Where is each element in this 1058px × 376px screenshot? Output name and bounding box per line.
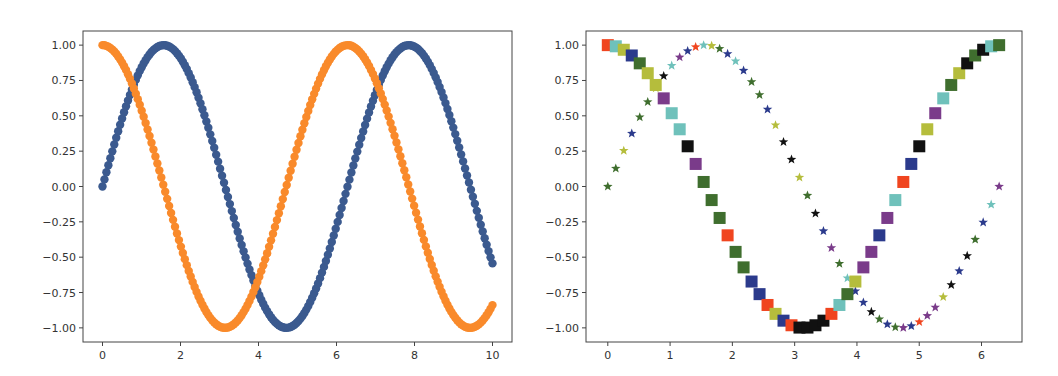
data-point bbox=[881, 212, 893, 224]
data-point bbox=[747, 77, 757, 86]
y-tick-label: −1.00 bbox=[545, 322, 579, 335]
y-tick-label: 1.00 bbox=[555, 39, 580, 52]
x-tick-label: 0 bbox=[604, 349, 611, 362]
data-point bbox=[284, 174, 292, 182]
data-point bbox=[163, 195, 171, 203]
data-point bbox=[400, 166, 408, 174]
data-point bbox=[659, 71, 669, 80]
data-point bbox=[347, 168, 355, 176]
x-tick-label: 0 bbox=[99, 349, 106, 362]
data-point bbox=[406, 187, 414, 195]
data-point bbox=[643, 97, 653, 106]
data-point bbox=[674, 123, 686, 135]
data-point bbox=[461, 164, 469, 172]
data-point bbox=[408, 194, 416, 202]
y-tick-label: 0.25 bbox=[52, 145, 77, 158]
data-point bbox=[339, 197, 347, 205]
data-point bbox=[619, 146, 629, 155]
data-point bbox=[341, 190, 349, 198]
data-point bbox=[98, 182, 106, 190]
y-tick-label: 1.00 bbox=[52, 39, 77, 52]
series-cosx bbox=[602, 39, 1005, 333]
data-point bbox=[345, 175, 353, 183]
data-point bbox=[875, 314, 885, 323]
y-tick-label: 0.00 bbox=[52, 181, 77, 194]
data-point bbox=[100, 175, 108, 183]
data-point bbox=[873, 229, 885, 241]
data-point bbox=[706, 194, 718, 206]
axes-frame bbox=[83, 31, 512, 342]
data-point bbox=[986, 200, 996, 209]
data-point bbox=[883, 319, 893, 328]
data-point bbox=[795, 172, 805, 181]
data-point bbox=[488, 259, 496, 267]
data-point bbox=[739, 66, 749, 75]
data-point bbox=[771, 120, 781, 129]
data-point bbox=[675, 52, 685, 61]
data-point bbox=[937, 92, 949, 104]
data-point bbox=[404, 180, 412, 188]
data-point bbox=[698, 176, 710, 188]
data-point bbox=[755, 90, 765, 99]
data-point bbox=[157, 173, 165, 181]
data-point bbox=[283, 181, 291, 189]
data-point bbox=[891, 322, 901, 331]
data-point bbox=[658, 92, 670, 104]
data-point bbox=[929, 107, 941, 119]
data-point bbox=[402, 173, 410, 181]
x-tick-label: 5 bbox=[916, 349, 923, 362]
x-tick-label: 8 bbox=[411, 349, 418, 362]
data-point bbox=[945, 79, 957, 91]
data-point bbox=[923, 311, 933, 320]
y-tick-label: −0.75 bbox=[545, 287, 579, 300]
y-tick-label: 0.00 bbox=[555, 181, 580, 194]
x-tick-label: 2 bbox=[729, 349, 736, 362]
right-axes: 01234561.000.750.500.250.00−0.25−0.50−0.… bbox=[545, 31, 1022, 362]
data-point bbox=[970, 235, 980, 244]
data-point bbox=[715, 44, 725, 53]
data-point bbox=[650, 79, 662, 91]
x-tick-label: 2 bbox=[177, 349, 184, 362]
x-tick-label: 4 bbox=[255, 349, 262, 362]
data-point bbox=[779, 137, 789, 146]
data-point bbox=[723, 49, 733, 58]
x-tick-label: 4 bbox=[853, 349, 860, 362]
data-point bbox=[993, 39, 1005, 51]
left-axes: 02468101.000.750.500.250.00−0.25−0.50−0.… bbox=[42, 31, 512, 362]
data-point bbox=[897, 176, 909, 188]
data-point bbox=[867, 307, 877, 316]
data-point bbox=[915, 317, 925, 326]
data-point bbox=[642, 67, 654, 79]
data-point bbox=[102, 168, 110, 176]
data-point bbox=[954, 266, 964, 275]
data-point bbox=[398, 159, 406, 167]
y-tick-label: 0.75 bbox=[52, 74, 77, 87]
y-tick-label: −0.75 bbox=[42, 287, 76, 300]
data-point bbox=[978, 217, 988, 226]
x-tick-label: 3 bbox=[791, 349, 798, 362]
x-tick-label: 1 bbox=[667, 349, 674, 362]
data-point bbox=[635, 112, 645, 121]
data-point bbox=[222, 186, 230, 194]
figure: 02468101.000.750.500.250.00−0.25−0.50−0.… bbox=[0, 0, 1058, 376]
data-point bbox=[471, 200, 479, 208]
data-point bbox=[467, 185, 475, 193]
y-tick-label: −0.50 bbox=[42, 251, 76, 264]
data-point bbox=[714, 212, 726, 224]
data-point bbox=[224, 193, 232, 201]
data-point bbox=[707, 41, 717, 50]
data-point bbox=[220, 179, 228, 187]
data-point bbox=[469, 193, 477, 201]
data-point bbox=[905, 158, 917, 170]
data-point bbox=[722, 229, 734, 241]
data-point bbox=[787, 154, 797, 163]
data-point bbox=[754, 288, 766, 300]
data-point bbox=[857, 261, 869, 273]
data-point bbox=[730, 246, 742, 258]
data-point bbox=[699, 40, 709, 49]
series-sinx bbox=[603, 40, 1004, 332]
data-point bbox=[738, 261, 750, 273]
data-point bbox=[281, 188, 289, 196]
data-point bbox=[833, 299, 845, 311]
data-point bbox=[803, 191, 813, 200]
